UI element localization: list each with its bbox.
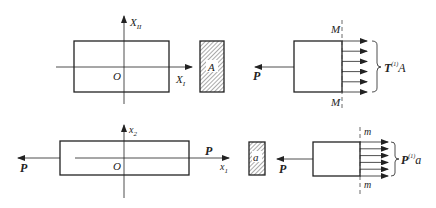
cut-M-bottom-label: M (330, 96, 341, 108)
axis-x2-lower-subscript: 2 (133, 130, 137, 138)
origin-lower-label: O (113, 160, 121, 172)
bottom-force-P-label: P (279, 162, 287, 176)
cross-section-a: a (249, 142, 265, 175)
bottom-free-body: P m m P(1)a (277, 126, 421, 195)
force-P-left-label: P (20, 161, 28, 175)
svg-text:XI: XI (175, 73, 186, 88)
top-free-body: P M M T(1)A (253, 20, 406, 110)
cut-m-bottom-label: m (364, 179, 371, 190)
force-P-right-label: P (205, 144, 213, 158)
cut-M-top-label: M (330, 23, 341, 35)
top-force-P-label: P (253, 69, 261, 83)
brace-top (372, 41, 381, 92)
svg-text:x2: x2 (128, 124, 137, 138)
stress-diagram: XII XI O A P M M T(1)A x2 x1 (0, 0, 436, 208)
brace-bottom (391, 142, 399, 176)
cross-section-A: A (200, 41, 224, 92)
bottom-body-group: x2 x1 O P P (18, 124, 229, 198)
axis-x1-lower-subscript: 1 (224, 167, 228, 175)
resultant-P-area: a (415, 153, 421, 167)
section-A-label: A (207, 61, 215, 73)
origin-label: O (113, 70, 121, 82)
top-body-rect (74, 41, 169, 92)
axis-x2-subscript: II (136, 23, 142, 31)
svg-text:P(1)a: P(1)a (401, 153, 421, 167)
traction-arrows-T (342, 41, 367, 92)
cut-m-top-label: m (364, 126, 371, 137)
svg-text:XII: XII (129, 16, 142, 31)
resultant-T-area: A (397, 61, 406, 75)
resultant-T-sup: (1) (391, 61, 398, 68)
top-body-group: XII XI O (56, 16, 192, 104)
svg-text:T(1)A: T(1)A (384, 61, 406, 75)
svg-text:x1: x1 (219, 161, 228, 175)
axis-x1-subscript: I (182, 80, 186, 88)
traction-arrows-p (360, 142, 388, 176)
section-a-label: a (253, 151, 259, 163)
resultant-P-sup: (1) (408, 153, 415, 160)
